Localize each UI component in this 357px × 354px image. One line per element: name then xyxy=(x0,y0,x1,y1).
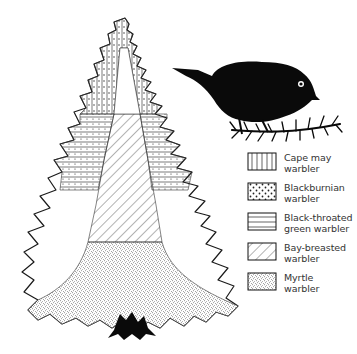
legend-item-cape-may: Cape may warbler xyxy=(248,152,357,174)
legend-label: Myrtle warbler xyxy=(284,272,319,294)
legend-label: Blackburnian warbler xyxy=(284,182,345,204)
legend-item-black-throated-green: Black-throated green warbler xyxy=(248,212,357,234)
legend-label: Cape may warbler xyxy=(284,152,331,174)
legend-item-myrtle: Myrtle warbler xyxy=(248,272,357,294)
legend-item-blackburnian: Blackburnian warbler xyxy=(248,182,357,204)
legend-label: Black-throated green warbler xyxy=(284,212,352,234)
warbler-zones-diagram xyxy=(0,0,357,354)
warbler-bird-silhouette xyxy=(172,62,320,134)
legend-item-bay-breasted: Bay-breasted warbler xyxy=(248,242,357,264)
legend-label: Bay-breasted warbler xyxy=(284,242,346,264)
